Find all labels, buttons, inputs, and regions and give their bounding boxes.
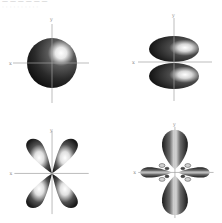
y-axis-label: y	[49, 16, 53, 23]
x-axis-label: x	[9, 60, 12, 66]
y-axis-label: y	[172, 121, 176, 128]
d-orbital-lobe-lower-right	[52, 173, 78, 208]
x-axis-label: x	[9, 170, 12, 176]
x-axis-label: x	[132, 59, 135, 65]
p-orbital-panel: x y	[111, 0, 222, 111]
y-axis-label: y	[49, 127, 53, 134]
d-orbital-lobe-upper-left	[26, 139, 52, 174]
p-orbital-diagram: x y	[111, 0, 222, 111]
d-orbital-diagram: x y	[0, 111, 111, 222]
s-orbital-panel: x y	[0, 0, 111, 111]
s-orbital-diagram: x y	[0, 0, 111, 111]
y-axis-label: y	[171, 12, 175, 19]
d-orbital-lobe-upper-right	[52, 139, 78, 174]
d-orbital-panel: x y	[0, 111, 111, 222]
d-orbital-lobe-lower-left	[26, 173, 52, 208]
x-axis-label: x	[133, 169, 136, 175]
f-orbital-diagram: x y	[111, 111, 222, 222]
f-orbital-panel: x y	[111, 111, 222, 222]
